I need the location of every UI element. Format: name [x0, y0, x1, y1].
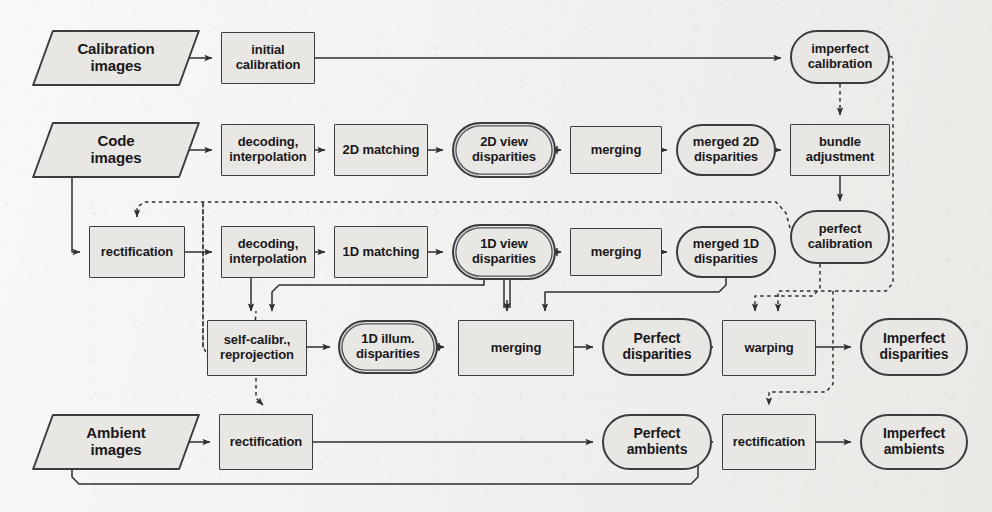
node-label: merging — [588, 143, 645, 158]
node-label: rectification — [98, 245, 176, 260]
node-label: 1D view disparities — [469, 237, 539, 266]
node-label: Calibration images — [74, 41, 157, 75]
node-label: Imperfect ambients — [880, 426, 948, 457]
edge-view-disparities-1d-to-merging-1d — [556, 249, 561, 255]
node-label: Imperfect disparities — [877, 331, 952, 362]
node-label: 1D matching — [340, 245, 423, 260]
node-imperfect-disparities[interactable]: Imperfect disparities — [860, 318, 968, 376]
node-1d-view-disparities[interactable]: 1D view disparities — [452, 224, 556, 280]
node-label: decoding, interpolation — [226, 237, 309, 266]
node-label: bundle adjustment — [803, 135, 877, 164]
node-label: imperfect calibration — [805, 42, 876, 71]
node-label: Perfect disparities — [620, 331, 695, 362]
node-merged-2d-disparities[interactable]: merged 2D disparities — [676, 124, 776, 176]
node-rectification-imperfect[interactable]: rectification — [722, 414, 816, 470]
node-label: self-calibr., reprojection — [217, 333, 297, 362]
node-label: merging — [588, 245, 645, 260]
flowchart-canvas: Calibration images initial calibration i… — [0, 0, 992, 512]
edge-perfect-calibration-to-rectification-1 — [137, 202, 790, 228]
node-label: merging — [488, 341, 545, 356]
node-label: rectification — [227, 435, 305, 450]
node-label: initial calibration — [233, 43, 304, 72]
node-imperfect-calibration[interactable]: imperfect calibration — [790, 30, 890, 84]
node-merging-2d[interactable]: merging — [570, 126, 662, 174]
node-1d-illum-disparities[interactable]: 1D illum. disparities — [338, 320, 438, 374]
node-decoding-interpolation-2d[interactable]: decoding, interpolation — [221, 124, 315, 176]
node-label: 2D view disparities — [469, 135, 539, 164]
node-merging-1d[interactable]: merging — [570, 228, 662, 276]
node-label: Code images — [87, 133, 144, 167]
node-rectification-code[interactable]: rectification — [89, 226, 185, 278]
edge-view-disparities-1d-to-self-calibration — [272, 280, 484, 311]
node-label: 1D illum. disparities — [353, 332, 423, 361]
node-rectification-ambient[interactable]: rectification — [219, 414, 313, 470]
node-bundle-adjustment[interactable]: bundle adjustment — [790, 124, 890, 176]
node-initial-calibration[interactable]: initial calibration — [221, 32, 315, 84]
node-merged-1d-disparities[interactable]: merged 1D disparities — [676, 226, 776, 278]
node-label: Ambient images — [83, 425, 148, 459]
edge-code-images-to-rectification-1 — [72, 178, 80, 252]
node-perfect-calibration[interactable]: perfect calibration — [790, 210, 890, 264]
node-perfect-ambients[interactable]: Perfect ambients — [602, 414, 712, 470]
node-calibration-images[interactable]: Calibration images — [42, 30, 190, 86]
node-self-calibration-reprojection[interactable]: self-calibr., reprojection — [207, 320, 307, 376]
node-label: decoding, interpolation — [226, 135, 309, 164]
node-label: merged 2D disparities — [690, 135, 762, 164]
node-label: perfect calibration — [805, 222, 876, 251]
edge-view-disparities-2d-to-merging-2d — [556, 147, 561, 153]
node-label: warping — [741, 341, 796, 356]
node-label: rectification — [730, 435, 808, 450]
node-warping[interactable]: warping — [722, 320, 816, 376]
edge-imperfect-calibration-to-warping — [778, 52, 893, 311]
node-merging-illum[interactable]: merging — [458, 320, 574, 376]
node-imperfect-ambients[interactable]: Imperfect ambients — [860, 414, 968, 470]
node-label: Perfect ambients — [624, 426, 691, 457]
node-1d-matching[interactable]: 1D matching — [334, 226, 428, 278]
node-decoding-interpolation-1d[interactable]: decoding, interpolation — [221, 226, 315, 278]
node-ambient-images[interactable]: Ambient images — [42, 414, 190, 470]
node-2d-matching[interactable]: 2D matching — [334, 124, 428, 176]
edge-merged-1d-to-merging-illum — [545, 278, 726, 311]
node-perfect-disparities[interactable]: Perfect disparities — [602, 318, 712, 376]
node-2d-view-disparities[interactable]: 2D view disparities — [452, 122, 556, 178]
node-label: 2D matching — [340, 143, 423, 158]
node-code-images[interactable]: Code images — [42, 122, 190, 178]
edge-view-disparities-1d-to-merging-illum — [504, 280, 510, 311]
node-label: merged 1D disparities — [690, 237, 762, 266]
edge-illum-disparities-1d-to-merging-illum — [438, 344, 444, 350]
